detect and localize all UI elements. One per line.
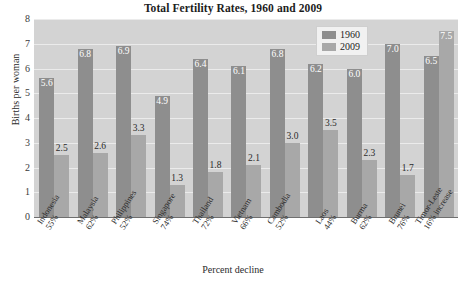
bar-value-label: 2.3 xyxy=(363,149,375,159)
x-axis-label-item: Malaysia62% xyxy=(73,219,111,265)
bar-1960: 6.8 xyxy=(78,49,93,217)
legend-swatch xyxy=(322,31,336,39)
bar-group: 6.41.8 xyxy=(189,19,227,217)
bar-value-label: 6.4 xyxy=(195,60,207,70)
x-axis-title: Percent decline xyxy=(0,264,466,275)
bar-value-label: 5.6 xyxy=(41,79,53,89)
bar-value-label: 4.9 xyxy=(156,97,168,107)
x-axis-labels: Indonesia55%Malaysia62%Philippines52%Sin… xyxy=(35,219,458,265)
legend-item-2009: 2009 xyxy=(322,42,360,52)
x-axis-label-item: Philippines52% xyxy=(112,219,150,265)
bar-value-label: 1.7 xyxy=(402,164,414,174)
legend-label: 2009 xyxy=(340,42,360,52)
bar-group: 6.12.1 xyxy=(227,19,265,217)
bar-1960: 6.2 xyxy=(308,64,323,217)
bar-value-label: 6.0 xyxy=(348,70,360,80)
bar-value-label: 6.5 xyxy=(425,57,437,67)
bar-1960: 6.1 xyxy=(231,66,246,217)
fertility-rates-chart: Total Fertility Rates, 1960 and 2009 876… xyxy=(0,0,466,286)
x-axis-label-item: Timor-Leste16% increase xyxy=(420,219,458,265)
y-axis-tick: 2 xyxy=(25,163,30,173)
y-axis-title: Births per woman xyxy=(10,15,21,165)
chart-title: Total Fertility Rates, 1960 and 2009 xyxy=(0,2,466,14)
bar-1960: 6.4 xyxy=(193,59,208,217)
bar-value-label: 6.8 xyxy=(79,50,91,60)
bar-2009: 3.5 xyxy=(323,130,338,217)
bar-group: 6.82.6 xyxy=(73,19,111,217)
x-axis-label-item: Burma62% xyxy=(343,219,381,265)
bar-group: 6.83.0 xyxy=(266,19,304,217)
bar-value-label: 7.5 xyxy=(440,32,452,42)
y-axis-tick: 7 xyxy=(25,39,30,49)
bar-value-label: 7.0 xyxy=(387,45,399,55)
x-axis-label-item: Singapore74% xyxy=(150,219,188,265)
bar-value-label: 6.2 xyxy=(310,65,322,75)
bar-value-label: 2.5 xyxy=(56,144,68,154)
y-axis-tick: 6 xyxy=(25,64,30,74)
bar-group: 5.62.5 xyxy=(35,19,73,217)
bar-1960: 7.0 xyxy=(385,44,400,217)
bar-value-label: 3.3 xyxy=(133,124,145,134)
bar-1960: 6.0 xyxy=(347,69,362,218)
bar-value-label: 3.5 xyxy=(325,119,337,129)
y-axis-tick: 8 xyxy=(25,14,30,24)
x-axis-label-item: Laos44% xyxy=(304,219,342,265)
y-axis-tick: 5 xyxy=(25,88,30,98)
bar-group: 6.93.3 xyxy=(112,19,150,217)
x-axis-label-item: Indonesia55% xyxy=(35,219,73,265)
y-axis-tick: 4 xyxy=(25,113,30,123)
bar-value-label: 6.9 xyxy=(118,47,130,57)
legend-item-1960: 1960 xyxy=(322,30,360,40)
bar-group: 4.91.3 xyxy=(150,19,188,217)
y-axis-tick: 0 xyxy=(25,212,30,222)
legend-label: 1960 xyxy=(340,30,360,40)
bar-value-label: 2.1 xyxy=(248,154,260,164)
bar-value-label: 6.8 xyxy=(272,50,284,60)
bar-value-label: 6.1 xyxy=(233,67,245,77)
x-axis-label-item: Cambodia52% xyxy=(266,219,304,265)
x-axis-label-item: Vietnam66% xyxy=(227,219,265,265)
bar-value-label: 1.8 xyxy=(210,161,222,171)
bar-group: 7.01.7 xyxy=(381,19,419,217)
x-axis-label-item: Brunei76% xyxy=(381,219,419,265)
bar-value-label: 1.3 xyxy=(171,174,183,184)
bar-value-label: 3.0 xyxy=(287,132,299,142)
bar-value-label: 2.6 xyxy=(94,142,106,152)
y-axis-tick: 1 xyxy=(25,187,30,197)
chart-legend: 19602009 xyxy=(316,26,368,56)
y-axis-tick: 3 xyxy=(25,138,30,148)
legend-swatch xyxy=(322,43,336,51)
bar-groups: 5.62.56.82.66.93.34.91.36.41.86.12.16.83… xyxy=(35,19,458,217)
x-axis-label-item: Thailand72% xyxy=(189,219,227,265)
